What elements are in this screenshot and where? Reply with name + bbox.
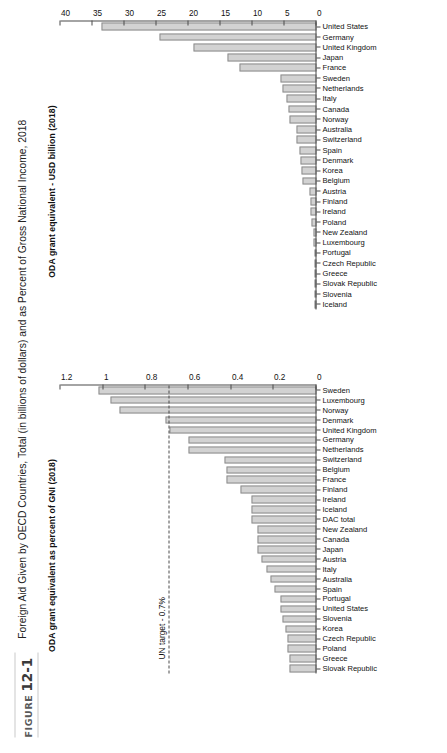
figure-badge-label: FIGURE bbox=[22, 694, 33, 737]
figure-badge-number: 12-1 bbox=[18, 657, 34, 691]
bar-series-percent-gni bbox=[64, 385, 316, 673]
x-label-cell: Greece bbox=[316, 653, 436, 663]
bar bbox=[257, 545, 316, 553]
x-tick-label: Belgium bbox=[322, 465, 349, 474]
x-label-cell: United Kingdom bbox=[316, 425, 436, 435]
bar bbox=[287, 634, 316, 642]
x-tick-label: Netherlands bbox=[322, 83, 363, 92]
x-label-cell: Luxembourg bbox=[316, 395, 436, 405]
x-tick-label: Finland bbox=[322, 485, 347, 494]
bar-cell bbox=[64, 237, 316, 247]
x-label-cell: Denmark bbox=[316, 155, 436, 165]
x-tick-label: Belgium bbox=[322, 176, 349, 185]
bar-cell bbox=[64, 574, 316, 584]
plot-area-usd-billion: 0510152025303540 IcelandSloveniaSlovak R… bbox=[64, 21, 316, 309]
figure-badge: FIGURE12-1 bbox=[14, 652, 38, 737]
bar bbox=[302, 177, 316, 185]
x-tick-label: Slovak Republic bbox=[322, 664, 376, 673]
x-tick-label: Canada bbox=[322, 104, 349, 113]
x-tick-label: Korea bbox=[322, 624, 342, 633]
rotated-figure-canvas: FIGURE12-1 Foreign Aid Given by OECD Cou… bbox=[0, 0, 447, 753]
x-tick-label: Australia bbox=[322, 574, 352, 583]
bar-cell bbox=[64, 206, 316, 216]
bar bbox=[289, 115, 316, 123]
y-tick bbox=[230, 384, 231, 389]
x-label-cell: Switzerland bbox=[316, 134, 436, 144]
y-tick bbox=[59, 20, 60, 25]
x-label-cell: Denmark bbox=[316, 415, 436, 425]
y-tick bbox=[123, 20, 124, 25]
x-tick-label: Australia bbox=[322, 125, 352, 134]
bar bbox=[165, 416, 316, 424]
bar-cell bbox=[64, 196, 316, 206]
x-label-cell: Belgium bbox=[316, 464, 436, 474]
x-tick-label: Iceland bbox=[322, 505, 347, 514]
y-tick-label: 30 bbox=[125, 9, 134, 18]
x-tick-label: Italy bbox=[322, 564, 336, 573]
bar-cell bbox=[64, 299, 316, 309]
x-tick-label: Sweden bbox=[322, 385, 349, 394]
bar-cell bbox=[64, 534, 316, 544]
x-label-cell: United States bbox=[316, 603, 436, 613]
x-tick-label: Netherlands bbox=[322, 445, 363, 454]
bar bbox=[280, 74, 316, 82]
chart-title-usd-billion: ODA grant equivalent - USD billion (2018… bbox=[46, 15, 56, 367]
x-tick-label: Portugal bbox=[322, 594, 350, 603]
bar-cell bbox=[64, 103, 316, 113]
bar-cell bbox=[64, 663, 316, 673]
x-label-cell: Spain bbox=[316, 145, 436, 155]
bar bbox=[280, 605, 316, 613]
x-label-cell: France bbox=[316, 474, 436, 484]
bar-cell bbox=[64, 114, 316, 124]
x-label-cell: DAC total bbox=[316, 514, 436, 524]
bar-series-usd-billion bbox=[64, 21, 316, 309]
x-label-cell: Ireland bbox=[316, 206, 436, 216]
x-labels-percent-gni: Slovak RepublicGreecePolandCzech Republi… bbox=[316, 385, 436, 673]
x-tick-label: Czech Republic bbox=[322, 258, 375, 267]
bar-cell bbox=[64, 405, 316, 415]
un-target-line bbox=[168, 385, 169, 673]
bar bbox=[226, 466, 316, 474]
bar bbox=[286, 94, 316, 102]
x-label-cell: Ireland bbox=[316, 494, 436, 504]
x-label-cell: Canada bbox=[316, 103, 436, 113]
x-label-cell: Portugal bbox=[316, 594, 436, 604]
bar-cell bbox=[64, 42, 316, 52]
bar-cell bbox=[64, 227, 316, 237]
x-tick-label: Luxembourg bbox=[322, 395, 364, 404]
x-tick-label: Greece bbox=[322, 269, 347, 278]
y-tick-label: 0 bbox=[317, 9, 322, 18]
x-label-cell: Poland bbox=[316, 216, 436, 226]
y-tick-label: 1 bbox=[103, 373, 108, 382]
x-tick-label: Japan bbox=[322, 544, 343, 553]
x-label-cell: Italy bbox=[316, 93, 436, 103]
bar-cell bbox=[64, 494, 316, 504]
bar bbox=[274, 585, 316, 593]
bar-cell bbox=[64, 653, 316, 663]
bar-cell bbox=[64, 643, 316, 653]
x-label-cell: Sweden bbox=[316, 385, 436, 395]
bar bbox=[288, 105, 316, 113]
x-tick-label: Czech Republic bbox=[322, 634, 375, 643]
bar-cell bbox=[64, 124, 316, 134]
bar-cell bbox=[64, 395, 316, 405]
y-tick bbox=[155, 20, 156, 25]
bar-cell bbox=[64, 247, 316, 257]
y-tick bbox=[59, 384, 60, 389]
bar bbox=[287, 644, 316, 652]
x-tick-label: Germany bbox=[322, 435, 353, 444]
bar-cell bbox=[64, 484, 316, 494]
y-tick-label: 1.2 bbox=[61, 373, 72, 382]
x-tick-label: United Kingdom bbox=[322, 425, 376, 434]
x-tick-label: Denmark bbox=[322, 155, 353, 164]
bar-cell bbox=[64, 134, 316, 144]
bar-cell bbox=[64, 435, 316, 445]
bar bbox=[224, 456, 316, 464]
y-tick bbox=[187, 384, 188, 389]
x-label-cell: Switzerland bbox=[316, 454, 436, 464]
bar bbox=[270, 575, 316, 583]
y-tick-label: 40 bbox=[61, 9, 70, 18]
x-tick-label: United Kingdom bbox=[322, 42, 376, 51]
bar bbox=[299, 146, 316, 154]
y-tick-label: 20 bbox=[189, 9, 198, 18]
